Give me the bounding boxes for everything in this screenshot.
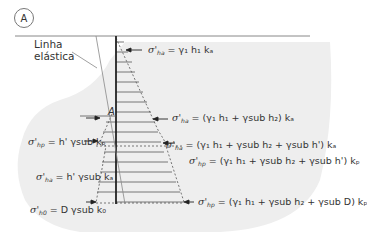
- equation-4: σ'ha = (γ₁ h₁ + γsub h₂ + γsub h') kₐ: [166, 140, 336, 151]
- equation-6: σ'ha = h' γsub kₐ: [36, 172, 113, 183]
- equation-2: σ'ha = (γ₁ h₁ + γsub h₂) kₐ: [172, 113, 294, 124]
- figure-badge: A: [14, 8, 34, 28]
- equation-7: σ'h0 = D γsub k₀: [30, 205, 106, 216]
- callout-line2: elástica: [34, 50, 75, 62]
- point-a-label: A: [108, 106, 115, 117]
- elastic-line-callout: Linha elástica: [34, 38, 75, 62]
- equation-1: σ'ha = γ₁ h₁ kₐ: [148, 45, 213, 56]
- equation-8: σ'hp = (γ₁ h₁ + γsub h₂ + γsub D) kₚ: [198, 197, 367, 208]
- elastic-callout-leader: [72, 52, 97, 68]
- callout-line1: Linha: [34, 38, 75, 50]
- equation-3: σ'hp = h' γsub kₚ: [28, 137, 106, 148]
- equation-5: σ'hp = (γ₁ h₁ + γsub h₂ + γsub h') kₚ: [189, 156, 360, 167]
